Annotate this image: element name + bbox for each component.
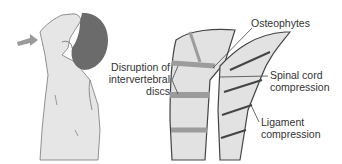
label-disc-disruption: Disruption of intervertebral discs xyxy=(98,61,170,97)
label-ligament-compression: Ligament compression xyxy=(261,116,321,140)
hyperextension-injury-diagram: Osteophytes Disruption of intervertebral… xyxy=(0,0,342,164)
force-arrow-icon xyxy=(17,34,38,46)
label-osteophytes: Osteophytes xyxy=(251,17,310,29)
label-spinal-cord-compression: Spinal cord compression xyxy=(270,69,330,93)
